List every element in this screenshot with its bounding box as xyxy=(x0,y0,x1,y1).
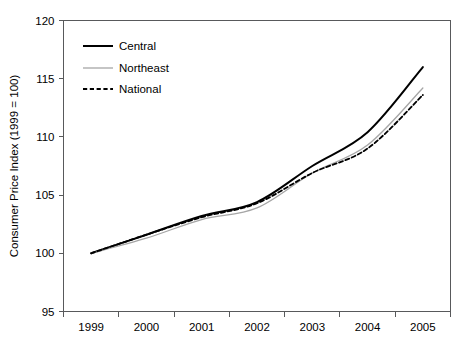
y-tick-label: 115 xyxy=(36,73,54,85)
series-line-national xyxy=(91,95,423,253)
y-axis-ticks xyxy=(59,21,64,312)
legend-label-national: National xyxy=(119,83,161,95)
y-axis-title: Consumer Price Index (1999 = 100) xyxy=(8,75,20,258)
x-axis-ticks xyxy=(64,312,451,317)
x-tick-label: 2001 xyxy=(189,321,215,333)
x-tick-label: 2005 xyxy=(410,321,436,333)
y-tick-label: 110 xyxy=(36,131,54,143)
x-tick-label: 2003 xyxy=(299,321,325,333)
y-tick-label: 105 xyxy=(35,189,54,201)
x-axis-tick-labels: 1999200020012002200320042005 xyxy=(78,321,435,333)
y-tick-label: 100 xyxy=(35,247,54,259)
series-line-northeast xyxy=(91,88,423,253)
chart-legend: CentralNortheastNational xyxy=(83,40,170,95)
y-tick-label: 120 xyxy=(35,15,54,27)
line-chart: 95100105110115120 1999200020012002200320… xyxy=(0,0,476,347)
x-tick-label: 2002 xyxy=(244,321,270,333)
legend-label-northeast: Northeast xyxy=(119,62,170,74)
x-tick-label: 2000 xyxy=(134,321,160,333)
x-tick-label: 2004 xyxy=(355,321,381,333)
y-axis-tick-labels: 95100105110115120 xyxy=(35,15,54,318)
legend-label-central: Central xyxy=(119,40,156,52)
x-tick-label: 1999 xyxy=(78,321,104,333)
y-tick-label: 95 xyxy=(42,306,55,318)
chart-container: 95100105110115120 1999200020012002200320… xyxy=(0,0,476,347)
